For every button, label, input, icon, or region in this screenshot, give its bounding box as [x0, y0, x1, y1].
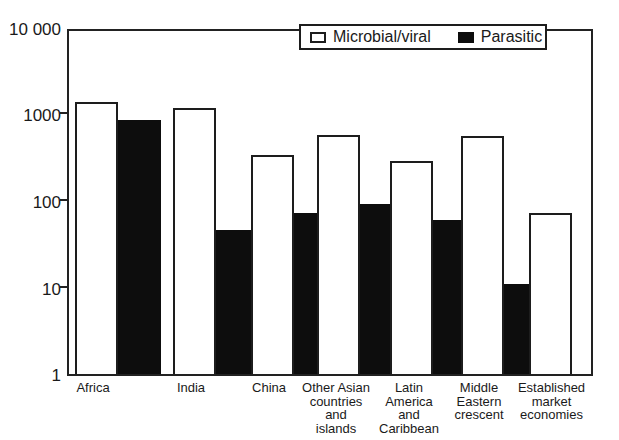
- bar-microbial-other-asian: [317, 135, 360, 374]
- y-tick-label-100: 100: [0, 194, 61, 211]
- bar-parasitic-africa: [118, 120, 161, 374]
- y-tick-mark-100: [60, 199, 67, 201]
- bar-chart: 10 000 1000 100 10 1 Microbi: [0, 0, 619, 440]
- legend-label-microbial-viral: Microbial/viral: [333, 29, 431, 45]
- plot-area: [67, 29, 593, 376]
- y-tick-label-10000: 10 000: [0, 21, 61, 38]
- bar-microbial-middle-eastern: [461, 136, 504, 374]
- bar-microbial-africa: [75, 102, 118, 374]
- x-axis-labels: Africa India China Other Asian countries…: [0, 381, 619, 440]
- y-tick-mark-1000: [60, 112, 67, 114]
- x-label-india: India: [146, 381, 236, 395]
- legend-entry-parasitic: Parasitic: [458, 29, 542, 45]
- legend: Microbial/viral Parasitic: [299, 24, 547, 50]
- legend-label-parasitic: Parasitic: [481, 29, 542, 45]
- bar-microbial-latin-america: [390, 161, 433, 374]
- x-label-established-market: Established market economies: [503, 381, 600, 422]
- y-axis: 10 000 1000 100 10 1: [0, 0, 67, 440]
- bar-microbial-india: [173, 108, 216, 374]
- y-tick-label-10: 10: [0, 281, 61, 298]
- open-square-icon: [310, 32, 326, 43]
- x-label-africa: Africa: [48, 381, 138, 395]
- bar-microbial-established-market: [529, 213, 572, 374]
- y-tick-mark-10: [60, 286, 67, 288]
- legend-entry-microbial-viral: Microbial/viral: [310, 29, 431, 45]
- filled-square-icon: [458, 32, 474, 43]
- y-tick-label-1000: 1000: [0, 107, 61, 124]
- bar-microbial-china: [251, 155, 294, 374]
